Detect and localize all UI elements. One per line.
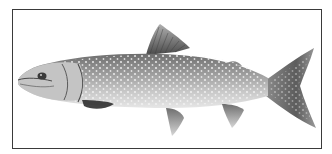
pelvic-fin: [166, 108, 184, 136]
eye: [38, 73, 47, 80]
tail-fin: [266, 48, 316, 128]
anal-fin: [222, 104, 244, 128]
lake-trout-illustration: [0, 0, 332, 154]
fish-head: [18, 62, 83, 102]
dorsal-fin: [146, 24, 190, 55]
